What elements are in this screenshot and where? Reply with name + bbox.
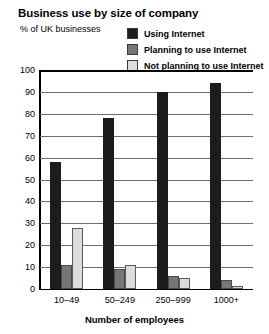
bar bbox=[114, 269, 125, 289]
chart-legend: Using InternetPlanning to use InternetNo… bbox=[127, 27, 264, 75]
bar bbox=[232, 286, 243, 289]
bar-group: 250–999 bbox=[147, 70, 200, 289]
legend-swatch-icon bbox=[127, 28, 138, 39]
bar-group: 10–49 bbox=[40, 70, 93, 289]
legend-label: Planning to use Internet bbox=[144, 45, 247, 55]
y-axis-tick-label: 30 bbox=[25, 219, 35, 228]
y-axis-tick-label: 10 bbox=[25, 263, 35, 272]
chart-subtitle: % of UK businesses bbox=[20, 24, 101, 34]
legend-label: Not planning to use Internet bbox=[144, 61, 264, 71]
legend-item: Planning to use Internet bbox=[127, 43, 264, 56]
bar bbox=[179, 278, 190, 289]
bar bbox=[72, 228, 83, 289]
y-axis-tick-label: 60 bbox=[25, 153, 35, 162]
x-axis-tick-label: 1000+ bbox=[214, 295, 239, 305]
x-axis-tick-label: 250–999 bbox=[156, 295, 191, 305]
bar bbox=[50, 162, 61, 289]
x-axis-tick-label: 50–249 bbox=[105, 295, 135, 305]
chart-container: Business use by size of company % of UK … bbox=[0, 0, 269, 334]
bar bbox=[168, 276, 179, 289]
y-axis-tick-label: 80 bbox=[25, 109, 35, 118]
bar-group: 50–249 bbox=[93, 70, 146, 289]
bar bbox=[221, 280, 232, 289]
bar bbox=[210, 83, 221, 289]
plot-area: 0102030405060708090100 10–4950–249250–99… bbox=[40, 70, 253, 289]
bar bbox=[103, 118, 114, 289]
legend-swatch-icon bbox=[127, 44, 138, 55]
y-axis-tick-label: 90 bbox=[25, 87, 35, 96]
chart-title: Business use by size of company bbox=[18, 7, 198, 19]
legend-label: Using Internet bbox=[144, 29, 205, 39]
x-axis-title: Number of employees bbox=[0, 314, 269, 325]
y-axis-tick-label: 70 bbox=[25, 131, 35, 140]
y-axis-tick-label: 100 bbox=[20, 66, 35, 75]
y-axis-tick-label: 40 bbox=[25, 197, 35, 206]
y-axis-tick-label: 50 bbox=[25, 175, 35, 184]
bar-group: 1000+ bbox=[200, 70, 253, 289]
bar bbox=[61, 265, 72, 289]
bar bbox=[125, 265, 136, 289]
y-axis-tick-label: 20 bbox=[25, 241, 35, 250]
y-axis-tick-label: 0 bbox=[30, 285, 35, 294]
bar bbox=[157, 92, 168, 289]
x-axis-tick-label: 10–49 bbox=[54, 295, 79, 305]
legend-item: Using Internet bbox=[127, 27, 264, 40]
